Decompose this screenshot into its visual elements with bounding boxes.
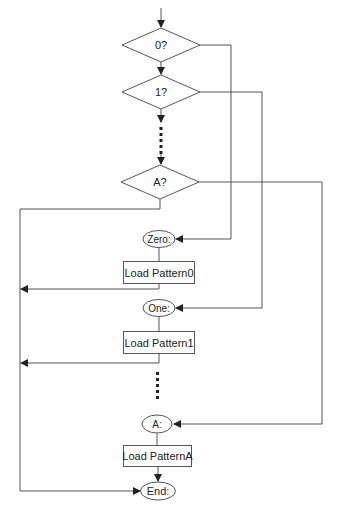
label-zero-text: Zero: [147, 234, 170, 245]
process-load-pattern1: Load Pattern1 [124, 332, 195, 354]
label-end: End: [141, 482, 176, 500]
arrow-d0-to-zero [176, 45, 231, 239]
arrow-p0-to-end-line [21, 284, 159, 290]
process-load-patterna-text: Load PatternA [122, 450, 193, 462]
label-one: One: [143, 300, 175, 317]
decision-a: A? [121, 165, 199, 199]
label-one-text: One: [148, 303, 170, 314]
decision-a-label: A? [153, 176, 166, 188]
ellipsis-dots-top [160, 127, 163, 154]
process-load-patterna: Load PatternA [122, 446, 193, 467]
ellipsis-dots-bottom [156, 372, 159, 399]
arrow-da-to-a [174, 182, 322, 424]
process-load-pattern0: Load Pattern0 [124, 262, 195, 284]
decision-0: 0? [122, 28, 200, 62]
process-load-pattern0-text: Load Pattern0 [124, 267, 193, 279]
label-zero: Zero: [143, 231, 175, 248]
decision-1-label: 1? [155, 86, 167, 98]
decision-1: 1? [122, 75, 200, 109]
label-a-text: A: [152, 419, 161, 430]
label-a: A: [142, 415, 172, 433]
flowchart: 0? 1? A? Zero: Load Pattern0 [0, 0, 339, 514]
arrow-p1-to-end-line [21, 354, 159, 364]
decision-0-label: 0? [155, 39, 167, 51]
label-end-text: End: [147, 485, 170, 497]
process-load-pattern1-text: Load Pattern1 [124, 337, 193, 349]
